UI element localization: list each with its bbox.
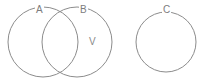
circle-b [42, 7, 112, 77]
region-label-v: V [89, 37, 96, 47]
circle-a [8, 7, 78, 77]
set-label-c: C [162, 5, 171, 15]
set-label-b: B [79, 5, 88, 15]
circle-c [136, 12, 196, 72]
set-label-a: A [35, 5, 44, 15]
venn-circles-canvas [0, 0, 203, 83]
venn-diagram: A B C V [0, 0, 203, 83]
